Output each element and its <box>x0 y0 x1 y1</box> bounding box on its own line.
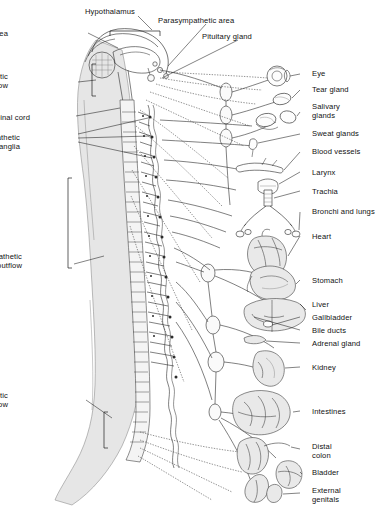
salivary-glands-organ <box>255 109 297 129</box>
intestines-organ <box>233 391 291 435</box>
label-pituitary-gland: Pituitary gland <box>202 33 252 42</box>
label-sympathetic-outflow: Sympathetic outflow <box>0 253 22 270</box>
label-gallbladder: Gallbladder <box>312 314 352 323</box>
label-sweat-glands: Sweat glands <box>312 130 359 139</box>
label-external-genitals: External genitals <box>312 487 341 504</box>
label-sympathetic-ganglia: Sympathetic ganglia <box>0 134 20 151</box>
label-bronchi-lungs: Bronchi and lungs <box>312 208 375 217</box>
label-salivary-glands: Salivary glands <box>312 103 340 120</box>
label-kidney: Kidney <box>312 364 336 373</box>
organ-illustrations <box>233 66 306 503</box>
label-parasympathetic-outflow-cranial: Parasympathetic outflow <box>0 73 8 90</box>
eye-organ <box>267 66 290 86</box>
label-adrenal-gland: Adrenal gland <box>312 340 360 349</box>
label-heart: Heart <box>312 233 331 242</box>
kidney-organ <box>253 351 284 386</box>
label-tear-gland: Tear gland <box>312 86 349 95</box>
label-parasympathetic-outflow-sacral: Parasympathetic outflow <box>0 392 8 409</box>
prevertebral-ganglia <box>201 264 224 420</box>
label-hypothalamus: Hypothalamus <box>85 8 135 17</box>
diagram-canvas <box>0 0 391 515</box>
label-blood-vessels: Blood vessels <box>312 148 360 157</box>
liver-gallbladder-organ <box>244 299 305 332</box>
autonomic-nervous-system-diagram: Sympathetic areaParasympathetic outflowS… <box>0 0 391 515</box>
tear-gland-organ <box>272 92 292 107</box>
cervical-ganglia <box>160 70 232 205</box>
label-sympathetic-area: Sympathetic area <box>0 30 8 39</box>
label-parasympathetic-area: Parasympathetic area <box>158 17 234 26</box>
bladder-organ <box>276 461 302 489</box>
label-larynx: Larynx <box>312 169 336 178</box>
blood-vessel-organ <box>236 158 283 173</box>
label-bladder: Bladder <box>312 469 339 478</box>
label-trachia: Trachia <box>312 188 338 197</box>
label-spinal-cord: Spinal cord <box>0 114 30 123</box>
label-bile-ducts: Bile ducts <box>312 327 346 336</box>
label-stomach: Stomach <box>312 277 343 286</box>
sweat-gland-organ <box>249 139 257 157</box>
stomach-organ <box>247 266 295 300</box>
label-liver: Liver <box>312 301 329 310</box>
label-intestines: Intestines <box>312 408 346 417</box>
label-distal-colon: Distal colon <box>312 443 332 460</box>
label-eye: Eye <box>312 70 325 79</box>
adrenal-gland-organ <box>244 336 266 344</box>
trachea-bronchi-lungs-organ <box>236 190 300 237</box>
external-genitals-organ <box>245 475 282 503</box>
